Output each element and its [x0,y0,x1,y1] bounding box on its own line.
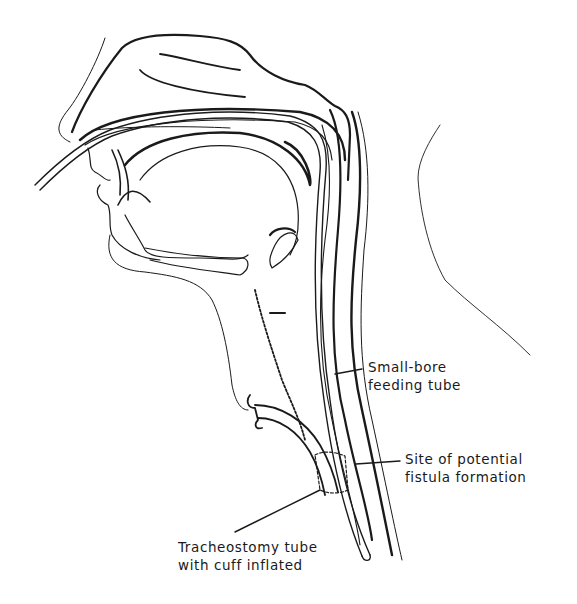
head-neck-section-drawing [0,0,577,604]
hyoid-bone [145,248,248,275]
soft-palate [125,132,310,185]
epiglottis [270,233,298,268]
pharynx-wall-3 [351,112,392,555]
upper-lip [88,148,110,180]
turbinate-upper [160,54,240,70]
tracheostomy-label: Tracheostomy tube with cuff inflated [178,538,318,574]
fistula-site-label: Site of potential fistula formation [405,450,527,486]
tracheostomy-label-line1: Tracheostomy tube [178,538,318,556]
nasal-cavity-outline [72,35,350,180]
lower-incisor [118,191,150,205]
fistula-site-label-line1: Site of potential [405,450,527,468]
fistula-site-label-line2: fistula formation [405,468,527,486]
face-profile [59,38,105,142]
feeding-tube-pointer [335,369,362,374]
anatomical-diagram: Small-bore feeding tube Site of potentia… [0,0,577,604]
turbinate-lower [140,70,245,97]
tracheostomy-pointer [235,490,320,532]
epiglottis-shadow [270,228,295,235]
fistula-pointer [356,461,400,464]
mandible [125,215,248,259]
feeding-tube-tip [362,555,370,560]
feeding-tube-label-line1: Small-bore [368,358,461,376]
tracheostomy-flange [248,395,262,428]
feeding-tube-line-b [40,118,362,556]
upper-incisor [112,150,128,200]
chin-neck-front [109,235,248,410]
feeding-tube-label: Small-bore feeding tube [368,358,461,394]
neck-back-contour [418,125,530,355]
oral-cavity [140,146,298,255]
tracheostomy-label-line2: with cuff inflated [178,556,318,574]
feeding-tube-label-line2: feeding tube [368,376,461,394]
